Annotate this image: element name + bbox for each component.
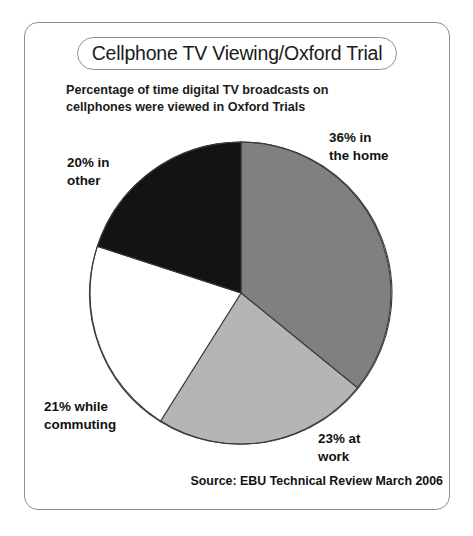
pie-chart-figure: Cellphone TV Viewing/Oxford Trial Percen… [0,0,473,536]
pie-label-commuting: 21% while commuting [44,398,116,434]
chart-title-box: Cellphone TV Viewing/Oxford Trial [77,37,397,70]
pie-label-home: 36% in the home [329,129,389,165]
pie-label-other: 20% in other [67,154,109,190]
pie-label-work: 23% at work [318,430,360,466]
source-caption: Source: EBU Technical Review March 2006 [190,474,443,488]
chart-subtitle: Percentage of time digital TV broadcasts… [66,82,396,116]
page-title: Cellphone TV Viewing/Oxford Trial [92,42,383,65]
